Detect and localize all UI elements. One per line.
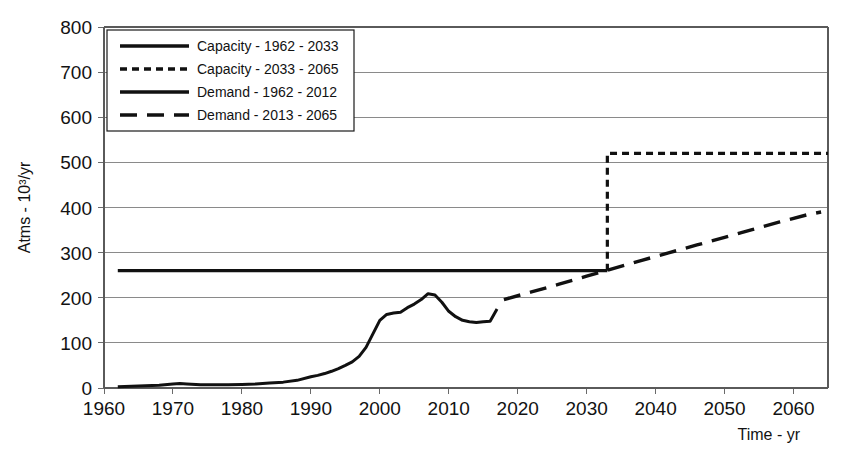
y-tick-label-800: 800 <box>60 17 92 38</box>
x-tick-label-1980: 1980 <box>221 398 263 419</box>
legend-label-3: Demand - 2013 - 2065 <box>197 107 337 123</box>
legend-label-1: Capacity - 2033 - 2065 <box>197 61 339 77</box>
x-tick-label-1960: 1960 <box>83 398 125 419</box>
x-tick-label-2050: 2050 <box>703 398 745 419</box>
legend-label-0: Capacity - 1962 - 2033 <box>197 38 339 54</box>
y-tick-label-400: 400 <box>60 198 92 219</box>
x-tick-label-2030: 2030 <box>566 398 608 419</box>
y-tick-label-700: 700 <box>60 62 92 83</box>
x-tick-label-1990: 1990 <box>290 398 332 419</box>
line-chart: 0100200300400500600700800 19601970198019… <box>0 0 849 476</box>
x-axis-title: Time - yr <box>737 426 800 443</box>
x-tick-label-2020: 2020 <box>497 398 539 419</box>
legend-label-2: Demand - 1962 - 2012 <box>197 84 337 100</box>
y-tick-label-500: 500 <box>60 152 92 173</box>
x-tick-label-2060: 2060 <box>772 398 814 419</box>
chart-legend: Capacity - 1962 - 2033Capacity - 2033 - … <box>107 30 354 131</box>
y-axis-title: Atms - 10³/yr <box>16 161 33 253</box>
y-tick-label-100: 100 <box>60 333 92 354</box>
x-axis-tick-labels: 1960197019801990200020102020203020402050… <box>83 398 815 419</box>
y-tick-label-600: 600 <box>60 107 92 128</box>
y-tick-label-300: 300 <box>60 243 92 264</box>
x-tick-label-1970: 1970 <box>152 398 194 419</box>
chart-container: 0100200300400500600700800 19601970198019… <box>0 0 849 476</box>
y-tick-label-0: 0 <box>81 378 92 399</box>
x-tick-label-2040: 2040 <box>634 398 676 419</box>
x-tick-label-2010: 2010 <box>428 398 470 419</box>
x-tick-label-2000: 2000 <box>359 398 401 419</box>
y-tick-label-200: 200 <box>60 288 92 309</box>
y-axis-tick-labels: 0100200300400500600700800 <box>60 17 92 399</box>
